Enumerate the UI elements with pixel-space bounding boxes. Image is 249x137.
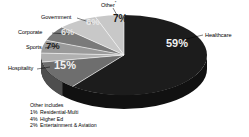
- slice-value-sports: 7%: [46, 41, 60, 51]
- chart-footnote: Other includes 1%Residential-Multi 4%Hig…: [30, 102, 97, 129]
- footnote-title: Other includes: [30, 102, 97, 109]
- slice-label-hospitality: Hospitality: [8, 66, 33, 72]
- footnote-marker-asterisk: *: [115, 0, 117, 5]
- footnote-item-percent: 4%: [30, 116, 40, 123]
- slice-value-other: 7%: [113, 14, 127, 24]
- footnote-item-percent: 1%: [30, 109, 40, 116]
- pie-slice-healthcare-upper: [124, 15, 207, 55]
- footnote-item-label: Higher Ed: [40, 116, 63, 122]
- footnote-item-label: Residential-Multi: [40, 109, 78, 115]
- footnote-item-label: Entertainment & Aviation: [40, 122, 97, 128]
- slice-label-other-text: Other: [101, 2, 115, 8]
- slice-label-other: Other*: [101, 3, 116, 9]
- slice-label-government: Government: [41, 15, 71, 21]
- footnote-item-percent: 2%: [30, 122, 40, 129]
- footnote-item: 4%Higher Ed: [30, 116, 97, 123]
- slice-label-sports: Sports: [26, 45, 42, 51]
- slice-value-healthcare: 59%: [166, 38, 188, 49]
- slice-value-corporate: 6%: [61, 28, 74, 37]
- pie-chart: Healthcare Other* Government Corporate S…: [0, 0, 249, 137]
- slice-value-hospitality: 15%: [54, 60, 76, 71]
- slice-label-corporate: Corporate: [18, 30, 42, 36]
- slice-label-healthcare: Healthcare: [205, 33, 232, 39]
- footnote-item: 2%Entertainment & Aviation: [30, 122, 97, 129]
- footnote-item: 1%Residential-Multi: [30, 109, 97, 116]
- slice-value-government: 6%: [86, 17, 100, 27]
